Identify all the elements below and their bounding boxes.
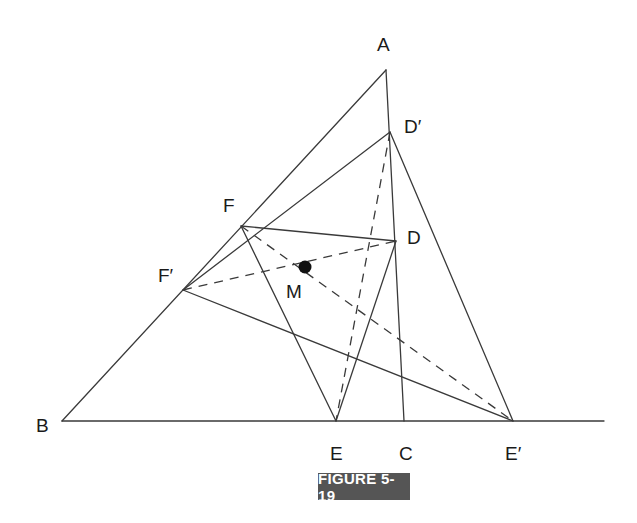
geometry-figure: A B C D D′ E E′ F F′ M: [0, 0, 637, 523]
side-FpDp: [183, 132, 390, 290]
label-C: C: [399, 443, 413, 464]
label-M: M: [286, 281, 302, 302]
figure-caption: FIGURE 5-19: [318, 473, 410, 500]
label-A: A: [377, 34, 390, 55]
label-B: B: [36, 415, 49, 436]
label-D-prime: D′: [404, 116, 422, 137]
dashed-Dp-E: [336, 132, 390, 421]
label-F-prime: F′: [158, 265, 174, 286]
point-M-dot: [299, 261, 312, 274]
side-EF: [241, 226, 336, 421]
label-F: F: [223, 195, 235, 216]
label-E: E: [330, 443, 343, 464]
side-AB: [62, 70, 386, 421]
label-E-prime: E′: [505, 443, 522, 464]
label-D: D: [407, 227, 421, 248]
